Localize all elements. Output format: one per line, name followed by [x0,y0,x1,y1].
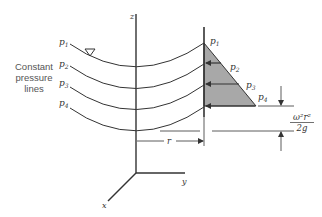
coordinate-axes: z y x [102,12,187,210]
wall-label-p2: p2 [230,62,240,73]
pressure-curve-p2 [70,64,204,89]
diagram-svg: z y x p1 p2 p3 p4 [0,0,322,217]
left-label-p1: p1 [59,37,69,48]
y-axis-label: y [181,177,187,186]
height-label-numerator: ω²r² [293,112,311,122]
radius-label: r [167,136,172,146]
label-line-2: pressure [4,72,64,83]
pressure-curve-p1 [70,43,204,67]
height-dimension-label: ω²r² 2g [290,112,314,133]
radius-dimension: r [137,117,204,146]
label-line-1: Constant [4,61,64,72]
wall-label-p1: p1 [210,36,220,47]
pressure-distribution [204,43,256,106]
height-label-denominator: 2g [296,123,308,133]
pressure-triangle [204,43,256,106]
x-axis-label: x [102,201,107,210]
x-axis [108,173,136,201]
free-surface-triangle-icon [85,49,95,56]
wall-label-p3: p3 [246,80,256,91]
left-label-p4: p4 [59,98,69,109]
constant-pressure-lines-label: Constant pressure lines [4,61,64,94]
wall-label-p4: p4 [258,92,268,103]
pressure-curve-p4 [70,107,204,131]
rigid-body-rotation-diagram: Constant pressure lines z y x [0,0,322,217]
label-line-3: lines [4,83,64,94]
z-axis-label: z [129,12,135,21]
